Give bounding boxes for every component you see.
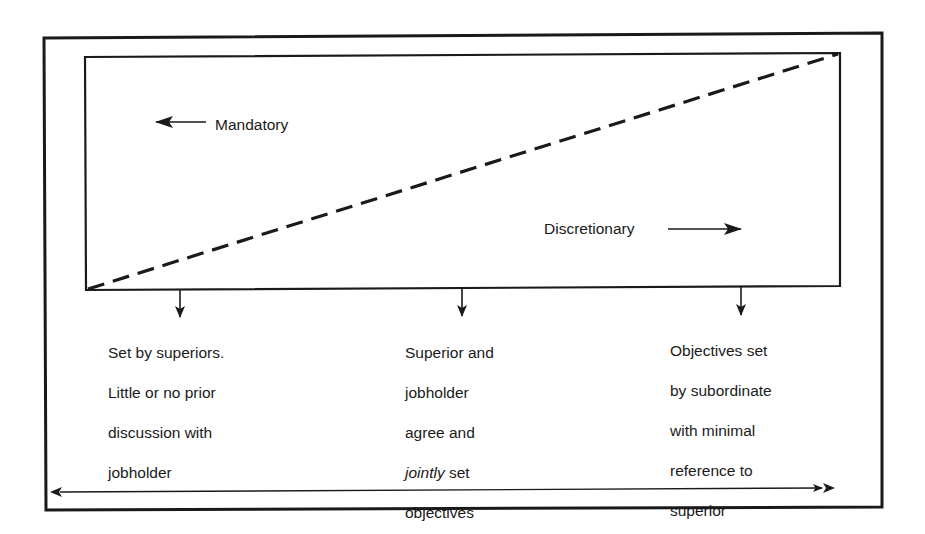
description-set-by-subordinate: Objectives set by subordinate with minim…	[670, 321, 772, 534]
description-line: discussion with	[108, 423, 224, 443]
emphasis-jointly: jointly	[405, 464, 445, 481]
discretionary-label: Discretionary	[544, 219, 634, 238]
description-line: Little or no prior	[108, 383, 224, 403]
description-jointly-set: Superior and jobholder agree and jointly…	[405, 323, 494, 534]
description-line: jointly set	[405, 463, 494, 483]
description-line: Set by superiors.	[108, 343, 224, 363]
description-line: Superior and	[405, 343, 494, 363]
description-set-by-superiors: Set by superiors. Little or no prior dis…	[108, 323, 224, 503]
mandatory-label: Mandatory	[215, 115, 288, 134]
description-line: superior	[670, 501, 772, 521]
description-line: jobholder	[108, 463, 224, 483]
dashed-diagonal	[88, 54, 838, 289]
continuum-right-arrowhead	[823, 483, 835, 493]
description-line-rest: set	[445, 464, 470, 481]
description-line: by subordinate	[670, 381, 772, 401]
description-line: reference to	[670, 461, 772, 481]
description-line: Objectives set	[670, 341, 772, 361]
description-line: agree and	[405, 423, 494, 443]
description-line: with minimal	[670, 421, 772, 441]
description-line: jobholder	[405, 383, 494, 403]
description-line: objectives	[405, 503, 494, 523]
